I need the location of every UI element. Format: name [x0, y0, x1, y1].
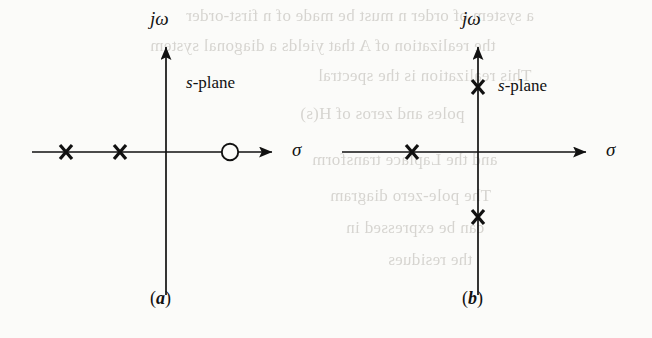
zero-marker-o: [222, 144, 238, 160]
plane-label-symbol: s: [186, 73, 193, 92]
plane-label-suffix: -plane: [505, 76, 547, 95]
panel-caption-letter: a: [156, 288, 165, 308]
plane-label: s-plane: [186, 73, 235, 93]
imaginary-axis-label: jω: [462, 8, 481, 30]
imaginary-axis-label: jω: [150, 8, 169, 30]
imaginary-axis-label-text: jω: [150, 8, 169, 29]
real-axis-label-text: σ: [292, 139, 301, 160]
pole-zero-panel-a: jω σ s-plane (a): [0, 0, 326, 338]
real-axis-label: σ: [606, 139, 615, 161]
panel-b-axes-svg: [326, 0, 652, 338]
real-axis-label: σ: [292, 139, 301, 161]
plane-label: s-plane: [498, 76, 547, 96]
panel-caption-a: (a): [150, 288, 171, 309]
plane-label-suffix: -plane: [193, 73, 235, 92]
real-axis-label-text: σ: [606, 139, 615, 160]
panel-caption-b: (b): [462, 288, 483, 309]
imaginary-axis-label-text: jω: [462, 8, 481, 29]
pole-zero-panel-b: jω σ s-plane (b): [326, 0, 652, 338]
plane-label-symbol: s: [498, 76, 505, 95]
panel-caption-letter: b: [468, 288, 477, 308]
figure-page: a system of order n must be made of n fi…: [0, 0, 652, 338]
